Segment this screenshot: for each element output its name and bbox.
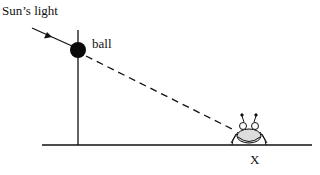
insect-icon xyxy=(231,114,267,145)
sun-light-label: Sun’s light xyxy=(2,3,58,19)
diagram-canvas xyxy=(0,0,320,175)
shadow-ray-dashed xyxy=(86,56,236,131)
position-x-label: X xyxy=(250,152,259,168)
arrow-head-icon xyxy=(44,32,52,39)
ball-label: ball xyxy=(92,36,112,52)
ball xyxy=(70,42,86,58)
